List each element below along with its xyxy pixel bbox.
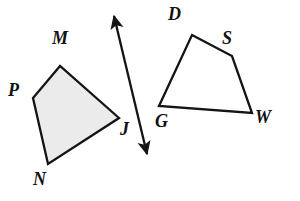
geometry-figure: M P N J D S G W: [0, 0, 300, 201]
vertex-label-m: M: [52, 29, 68, 47]
vertex-label-s: S: [222, 29, 232, 47]
vertex-label-j: J: [120, 120, 129, 138]
vertex-label-d: D: [168, 5, 181, 23]
vertex-label-g: G: [155, 112, 168, 130]
vertex-label-w: W: [255, 108, 271, 126]
vertex-label-n: N: [33, 170, 46, 188]
vertex-label-p: P: [8, 81, 19, 99]
